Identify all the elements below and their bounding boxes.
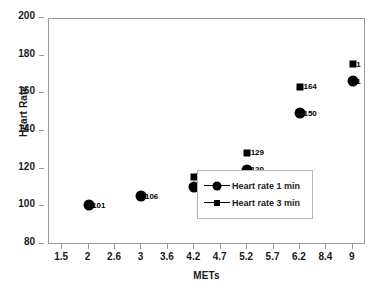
x-tick-mark bbox=[61, 244, 62, 249]
data-point: 101 bbox=[83, 200, 94, 211]
legend-entry: Heart rate 3 min bbox=[198, 194, 312, 211]
data-point: 164 bbox=[296, 83, 303, 90]
caption-strip bbox=[0, 284, 381, 290]
data-point-label: 150 bbox=[303, 109, 316, 118]
y-tick-label: 140 bbox=[18, 123, 35, 134]
data-point-label: 164 bbox=[303, 82, 316, 91]
y-tick-mark bbox=[39, 205, 44, 206]
x-tick-mark bbox=[114, 244, 115, 249]
y-axis: 20018016014012010080 bbox=[0, 18, 44, 244]
y-tick-label: 120 bbox=[18, 161, 35, 172]
x-tick-mark bbox=[167, 244, 168, 249]
y-tick-mark bbox=[39, 55, 44, 56]
data-point: 150 bbox=[294, 108, 305, 119]
y-tick-label: 80 bbox=[24, 236, 35, 247]
y-tick-mark bbox=[39, 130, 44, 131]
data-point: 129 bbox=[244, 149, 251, 156]
legend-marker-square-icon bbox=[204, 197, 230, 209]
x-tick-mark bbox=[299, 244, 300, 249]
legend-marker-circle-icon bbox=[204, 180, 230, 192]
x-tick-mark bbox=[352, 244, 353, 249]
y-tick-mark bbox=[39, 92, 44, 93]
x-axis: 1.522.633.64.24.75.25.76.28.49 bbox=[48, 244, 365, 266]
data-point: 106 bbox=[136, 191, 147, 202]
legend-key-marker bbox=[213, 181, 222, 190]
x-tick-mark bbox=[220, 244, 221, 249]
x-tick-mark bbox=[193, 244, 194, 249]
legend-label: Heart rate 3 min bbox=[230, 198, 300, 208]
legend: Heart rate 1 minHeart rate 3 min bbox=[197, 170, 313, 219]
x-tick-mark bbox=[273, 244, 274, 249]
y-tick-label: 100 bbox=[18, 198, 35, 209]
y-tick-mark bbox=[39, 17, 44, 18]
chart-figure: Heart Rate 20018016014012010080 10110611… bbox=[0, 0, 381, 290]
y-tick-mark bbox=[39, 243, 44, 244]
data-point-label: 129 bbox=[251, 148, 264, 157]
x-axis-title: METs bbox=[48, 270, 365, 281]
y-tick-label: 180 bbox=[18, 48, 35, 59]
data-point-label: 106 bbox=[145, 192, 158, 201]
x-tick-mark bbox=[88, 244, 89, 249]
data-point-label: 1 bbox=[356, 77, 360, 86]
data-point: 1 bbox=[349, 61, 356, 68]
data-point-label: 101 bbox=[92, 201, 105, 210]
data-point: 1 bbox=[347, 76, 358, 87]
y-tick-label: 200 bbox=[18, 10, 35, 21]
legend-label: Heart rate 1 min bbox=[230, 181, 300, 191]
x-tick-mark bbox=[246, 244, 247, 249]
y-tick-label: 160 bbox=[18, 85, 35, 96]
legend-key-marker bbox=[214, 200, 220, 206]
x-tick-mark bbox=[325, 244, 326, 249]
x-tick-mark bbox=[140, 244, 141, 249]
legend-entry: Heart rate 1 min bbox=[198, 177, 312, 194]
x-tick-label: 9 bbox=[332, 251, 372, 262]
y-tick-mark bbox=[39, 168, 44, 169]
data-point-label: 1 bbox=[356, 60, 360, 69]
